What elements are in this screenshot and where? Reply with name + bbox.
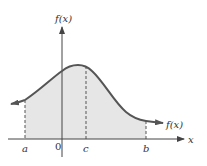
x-axis-label: x [188,134,194,145]
tick-label-zero: 0 [55,141,61,152]
y-axis-label: f(x) [54,13,72,24]
tick-label-b: b [143,143,149,154]
tick-label-c: c [83,143,89,154]
area-under-curve-diagram: f(x) x f(x) a 0 c b [0,0,207,166]
tick-label-a: a [22,143,28,154]
function-curve-left-tail [11,100,25,104]
curve-label: f(x) [165,119,183,130]
